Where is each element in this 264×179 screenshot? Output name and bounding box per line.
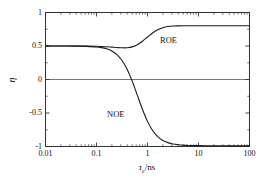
- x-tick-label: 10: [195, 150, 203, 158]
- y-axis-title: η: [7, 78, 16, 83]
- x-axis-title-unit: /ns: [145, 162, 156, 172]
- x-tick-label: 100: [244, 150, 256, 158]
- y-tick-label: 0.5: [20, 42, 42, 50]
- y-tick-label: 1: [20, 9, 42, 17]
- x-tick-label: 0.01: [39, 150, 53, 158]
- series-label-noe: NOE: [107, 110, 124, 119]
- series-label-roe: ROE: [160, 36, 177, 45]
- y-tick-label: 0: [20, 76, 42, 84]
- x-axis-title: τc/ns: [139, 163, 156, 175]
- y-tick-label: -0.5: [20, 109, 42, 117]
- chart-figure: 10.50-0.5-1 0.010.1110100 η τc/ns ROE NO…: [0, 0, 264, 179]
- x-tick-label: 0.1: [92, 150, 102, 158]
- x-tick-label: 1: [146, 150, 150, 158]
